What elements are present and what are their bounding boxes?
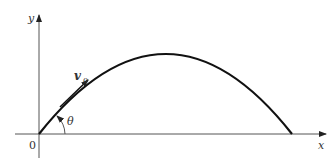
y-axis-label: y	[27, 12, 35, 25]
angle-label: θ	[67, 115, 74, 128]
projectile-diagram: y x 0 v 0 θ	[0, 0, 336, 165]
angle-arc	[57, 116, 65, 134]
velocity-label: v	[74, 69, 82, 83]
x-axis-label: x	[318, 139, 325, 152]
origin-label: 0	[29, 139, 36, 152]
velocity-subscript: 0	[83, 76, 88, 85]
trajectory-curve	[39, 54, 292, 134]
